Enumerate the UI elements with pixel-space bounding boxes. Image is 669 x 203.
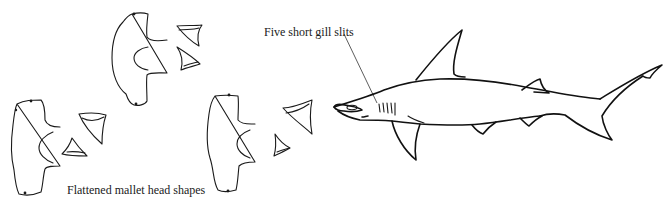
tooth-icon bbox=[62, 138, 87, 156]
head-middle-illustration bbox=[207, 94, 255, 193]
head-left-illustration bbox=[12, 100, 60, 195]
gill-slits-label: Five short gill slits bbox=[264, 26, 354, 38]
tooth-icon bbox=[79, 113, 106, 144]
tooth-icon bbox=[283, 100, 312, 134]
head-top-illustration bbox=[112, 13, 167, 106]
gill-leader-line bbox=[344, 34, 377, 103]
tooth-icon bbox=[177, 25, 202, 46]
gill-slits bbox=[379, 103, 395, 115]
tooth-icon bbox=[177, 47, 200, 70]
shark-body-illustration bbox=[334, 30, 662, 160]
hammerhead-diagram: Five short gill slits Flattened mallet h… bbox=[0, 0, 669, 203]
tooth-icon bbox=[274, 134, 290, 156]
head-shapes-label: Flattened mallet head shapes bbox=[67, 184, 205, 196]
